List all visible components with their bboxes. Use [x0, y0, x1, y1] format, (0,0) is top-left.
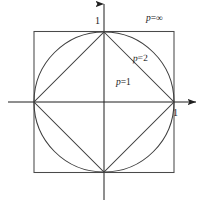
- p-two-label: p=2: [133, 54, 148, 64]
- y-axis-tick-label-one: 1: [95, 16, 100, 26]
- p-one-value: 1: [126, 77, 131, 87]
- plot-canvas: [0, 0, 207, 205]
- p-infinity-value: ∞: [156, 13, 163, 23]
- lp-unit-ball-figure: p=∞ p=2 p=1 1 1: [0, 0, 207, 205]
- x-axis-tick-label-one: 1: [173, 108, 178, 118]
- p-two-value: 2: [143, 53, 148, 63]
- p-infinity-label: p=∞: [146, 14, 163, 24]
- figure-caption: [0, 199, 207, 205]
- p-one-label: p=1: [116, 78, 131, 88]
